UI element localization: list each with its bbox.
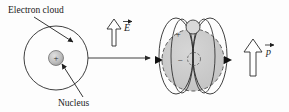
- polarized-negative-symbol: −: [177, 55, 182, 65]
- nucleus-label: Nucleus: [58, 98, 89, 108]
- dipole-moment-vector: p: [244, 39, 274, 76]
- displaced-nucleus-circle: [186, 20, 200, 34]
- nucleus-leader-line: [62, 64, 83, 97]
- electron-cloud-leader-line: [34, 17, 73, 42]
- nucleus-plus-symbol: +: [53, 53, 58, 63]
- polarized-positive-symbol: +: [175, 29, 180, 39]
- dipole-moment-label: p: [265, 46, 271, 57]
- nucleus-callout: Nucleus: [58, 64, 89, 108]
- electron-cloud-callout: Electron cloud: [8, 5, 73, 42]
- e-field-label: E: [123, 22, 130, 33]
- electron-cloud-label: Electron cloud: [8, 5, 64, 15]
- physics-figure: + Electron cloud Nucleus E: [0, 0, 289, 112]
- dipole-moment-arrow-shape: [244, 39, 262, 76]
- e-field-arrow-shape: [107, 19, 121, 46]
- figure-canvas: + Electron cloud Nucleus E: [0, 0, 289, 112]
- unpolarized-atom-group: +: [24, 26, 88, 90]
- e-field-vector: E: [107, 19, 132, 46]
- field-arrowhead-right: [224, 56, 232, 64]
- polarized-atom-group: + −: [155, 18, 232, 94]
